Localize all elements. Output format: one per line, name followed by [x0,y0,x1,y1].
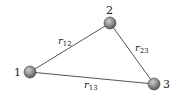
node-1-label: 1 [14,66,21,79]
triangle-diagram: 1 2 3 r12 r23 r13 [0,0,177,98]
node-3-label: 3 [163,78,170,91]
node-2 [104,17,116,29]
edge-1-3 [30,72,154,84]
edge-label-r12: r12 [58,35,72,48]
node-3 [148,78,160,90]
node-1 [24,66,36,78]
edge-label-r23: r23 [135,42,149,55]
edge-label-r13: r13 [84,79,98,92]
node-2-label: 2 [106,4,113,17]
